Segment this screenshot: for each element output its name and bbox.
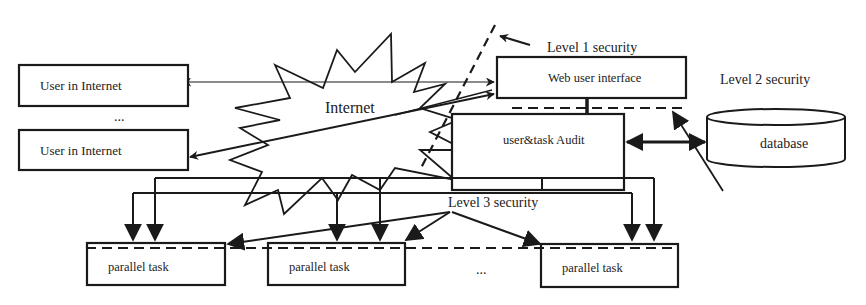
user-bottom-label: User in Internet bbox=[40, 143, 122, 158]
user-in-internet-top: User in Internet bbox=[19, 65, 188, 106]
internet-label: Internet bbox=[325, 99, 375, 116]
users-ellipsis: ... bbox=[114, 109, 125, 124]
web-user-interface: Web user interface bbox=[497, 57, 686, 98]
database: database bbox=[707, 109, 845, 167]
user-top-label: User in Internet bbox=[40, 78, 122, 93]
task1-label: parallel task bbox=[108, 260, 169, 274]
database-label: database bbox=[760, 136, 808, 151]
audit-label: user&task Audit bbox=[503, 133, 585, 147]
task3-label: parallel task bbox=[562, 261, 623, 275]
level3-pointers bbox=[228, 212, 540, 244]
level3-security-label: Level 3 security bbox=[448, 195, 538, 210]
level1-pointer bbox=[500, 36, 530, 45]
level1-security-label: Level 1 security bbox=[547, 40, 637, 55]
level2-security-label: Level 2 security bbox=[720, 72, 810, 87]
tasks-ellipsis: ... bbox=[476, 262, 487, 277]
parallel-task-1: parallel task bbox=[87, 243, 225, 285]
web-ui-label: Web user interface bbox=[548, 71, 642, 85]
task2-label: parallel task bbox=[289, 260, 350, 274]
security-architecture-diagram: Internet User in Internet ... User in In… bbox=[0, 0, 866, 305]
user-in-internet-bottom: User in Internet bbox=[19, 130, 188, 170]
parallel-task-2: parallel task bbox=[268, 243, 405, 285]
parallel-task-3: parallel task bbox=[541, 244, 678, 287]
